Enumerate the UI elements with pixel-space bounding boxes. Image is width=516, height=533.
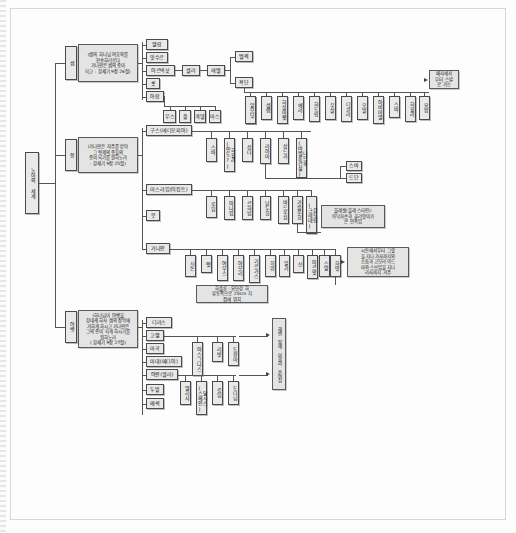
node-mizraim-son-naphtuhim[interactable]: 납두힘: [260, 196, 271, 220]
connector-gomer-bar: [164, 336, 236, 337]
node-ham-son-mizraim[interactable]: 미스라임(이집트): [146, 184, 192, 195]
node-cush-son-sabteca[interactable]: 삽드가: [278, 138, 289, 164]
node-mizraim-son-anamim[interactable]: 아나밈: [224, 196, 235, 220]
node-mizraim-son-caphtorim[interactable]: 갑도림(크레데): [306, 196, 317, 234]
node-aram-son-hul[interactable]: 훌: [179, 110, 191, 123]
node-joktan-son-jobab[interactable]: 요밥: [419, 96, 430, 120]
node-japheth-son-madai[interactable]: 마대(메디아): [146, 356, 182, 367]
node-joktan-son-almodad[interactable]: 알모닷: [245, 96, 256, 124]
node-japheth-son-meshech[interactable]: 메섹: [146, 398, 164, 409]
node-eber[interactable]: 에벨: [207, 65, 225, 76]
node-javan-son-elishah[interactable]: 엘리사: [180, 381, 191, 405]
root-node-noah-world[interactable]: 노아의 세계: [25, 152, 39, 214]
note-shem-territory: 메사에서 부터 스발 로 가는: [429, 70, 459, 89]
node-gomer-son-togarmah[interactable]: 도갈마: [228, 342, 239, 366]
node-joktan-son-jerah[interactable]: 예라: [293, 96, 304, 120]
branch-note-japheth: (하나님이 야벳을 창대케 하사 셈의 장막에 거하게 하시고 가나안은 그의 …: [78, 310, 138, 348]
connector-raamah-up: [340, 166, 341, 178]
connector-raamah-run: [265, 178, 340, 179]
node-aram-son-mash[interactable]: 마스: [209, 110, 221, 123]
node-ham-son-canaan[interactable]: 가나안: [146, 243, 170, 254]
node-joktan-son-hazarmaveth[interactable]: 하살마웻: [277, 96, 288, 124]
node-shem-son-arphaxad[interactable]: 아르박삿: [146, 65, 175, 76]
node-japheth-son-magog[interactable]: 마곡: [146, 343, 164, 354]
node-ham-son-put[interactable]: 붓: [146, 210, 160, 221]
branch-node-japheth[interactable]: 야벳: [65, 311, 77, 343]
node-canaan-son-sinite[interactable]: 신: [293, 255, 304, 273]
node-canaan-son-arvadite[interactable]: 아르왓: [307, 255, 318, 279]
note-hamath: 하솔론 : 요단강 하 류동쪽으로 25km 지 점에 위치: [196, 285, 268, 303]
node-canaan-son-heth[interactable]: 헷: [201, 255, 212, 273]
node-raamah-son-sheba[interactable]: 스바: [346, 161, 362, 171]
node-cush-son-seba[interactable]: 스바: [206, 138, 217, 162]
node-joktan-son-uzal[interactable]: 우살: [325, 96, 336, 120]
node-gomer-son-riphath[interactable]: 리밧: [212, 342, 223, 362]
node-canaan-son-sidon[interactable]: 시돈: [185, 255, 196, 277]
connector-joktan-bar: [244, 92, 429, 93]
node-joktan-son-havilah[interactable]: 하윌라: [405, 96, 416, 122]
node-joktan-son-abimael[interactable]: 아비마엘: [373, 96, 384, 124]
node-japheth-son-tubal[interactable]: 두발: [146, 384, 164, 395]
node-canaan-son-zemarite[interactable]: 스말: [319, 255, 330, 277]
connector-cush-s4: [283, 131, 284, 138]
connector-cush-bar: [192, 131, 311, 132]
node-joktan[interactable]: 욕단: [235, 77, 253, 88]
node-aram-son-gether[interactable]: 게델: [194, 110, 206, 123]
node-japheth-son-gomer[interactable]: 고멜: [146, 330, 164, 341]
branch-node-shem[interactable]: 셈: [65, 46, 77, 80]
node-mizraim-son-lehabim[interactable]: 르하빔: [242, 196, 253, 220]
arrow-japheth-note-bottom: [266, 372, 270, 376]
node-aram-son-uz[interactable]: 우스: [163, 110, 176, 123]
node-cush-son-sabtah[interactable]: 삽다: [242, 138, 253, 162]
branch-note-ham: (가나안은 저주를 받아 그 형제의 종들의 종이 되기를 원하노라 : 창세기…: [78, 137, 138, 173]
node-canaan-son-jebusite[interactable]: 여부스: [217, 255, 228, 281]
node-shem-son-asshur[interactable]: 앗수르: [146, 52, 168, 63]
genealogy-diagram: 노아의 세계 셈 (셈의 하나님 여호와를 찬송하리로다 가나안은 셈의 종이 …: [0, 0, 516, 533]
connector-mizraim-bar: [192, 190, 311, 191]
node-mizraim-son-ludim[interactable]: 루딤: [206, 196, 217, 218]
node-japheth-son-javan[interactable]: 야완(헬라): [146, 369, 178, 380]
connector-cush-s1: [229, 131, 230, 138]
node-joktan-son-sheba[interactable]: 스바: [389, 96, 400, 118]
node-mizraim-son-pathrusim[interactable]: 바드루심: [278, 196, 289, 224]
note-japheth-coastland: 해변 땅에 머물러 흩어짐: [272, 318, 286, 390]
connector-cush-s3: [265, 131, 266, 138]
node-joktan-son-hadoram[interactable]: 하도람: [309, 96, 320, 122]
node-raamah-son-dedan[interactable]: 드단: [346, 173, 362, 183]
node-cush-son-nimrod[interactable]: 니므롯(바벨론건설): [296, 138, 307, 178]
note-philistine: 블레셋(블레 스타인): 아낙자손과 골리앗이가 큰 민족임: [321, 205, 385, 228]
branch-note-shem: (셈의 하나님 여호와를 찬송하리로다 가나안은 셈의 종이 되고 : 창세기 …: [78, 44, 138, 82]
node-javan-son-dodanim[interactable]: 도다님: [228, 381, 239, 405]
connector-japheth-sons-spine: [142, 320, 143, 415]
node-javan-son-tarshish[interactable]: 달시스(스페인): [196, 381, 207, 415]
node-shem-son-lud[interactable]: 룻: [146, 78, 160, 89]
node-gomer-son-ashkenaz[interactable]: 아스그나스: [192, 342, 203, 376]
branch-node-ham[interactable]: 함: [65, 139, 77, 171]
connector-arphaxad-shelah: [175, 70, 182, 71]
node-cush-son-havilah[interactable]: 하윌라(인도?): [224, 138, 235, 172]
node-peleg[interactable]: 벨렉: [235, 51, 253, 62]
node-ham-son-cush[interactable]: 구스(에디오피아): [146, 125, 192, 136]
node-mizraim-son-casluhim[interactable]: 가슬루힘: [292, 196, 303, 224]
node-javan-son-kittim[interactable]: 깃딤: [212, 381, 223, 405]
connector-shelah-eber: [200, 70, 207, 71]
note-canaan-border: 시돈에서부터 그랄 을 지나 가사까지와 소돔과 고모라 아드 마와 스보임을 …: [347, 247, 409, 277]
node-joktan-son-obal[interactable]: 오발: [357, 96, 368, 120]
node-joktan-son-sheleph[interactable]: 셀렙: [261, 96, 272, 120]
arrow-canaan-note: [341, 260, 345, 264]
connector-philistine: [297, 224, 298, 232]
node-shem-son-elam[interactable]: 엘람: [146, 39, 168, 50]
node-japheth-son-tiras[interactable]: 디라스: [146, 317, 172, 328]
node-joktan-son-diklah[interactable]: 디글라: [341, 96, 352, 122]
node-canaan-son-amorite[interactable]: 아모리: [233, 255, 244, 281]
connector-cush-s2: [247, 131, 248, 138]
node-cush-son-raamah[interactable]: 라아마: [260, 138, 271, 164]
node-shelah[interactable]: 셀라: [182, 65, 200, 76]
node-shem-son-aram[interactable]: 아람: [146, 91, 164, 102]
node-canaan-son-arkite[interactable]: 알가: [279, 255, 290, 277]
connector-hamath-note: [335, 277, 336, 285]
node-canaan-son-girgashite[interactable]: 기르가스: [249, 255, 260, 283]
node-canaan-son-hamathite[interactable]: 하맛: [330, 255, 341, 277]
node-canaan-son-hivite[interactable]: 히위: [265, 255, 276, 277]
connector-branch-shem: [55, 63, 65, 64]
